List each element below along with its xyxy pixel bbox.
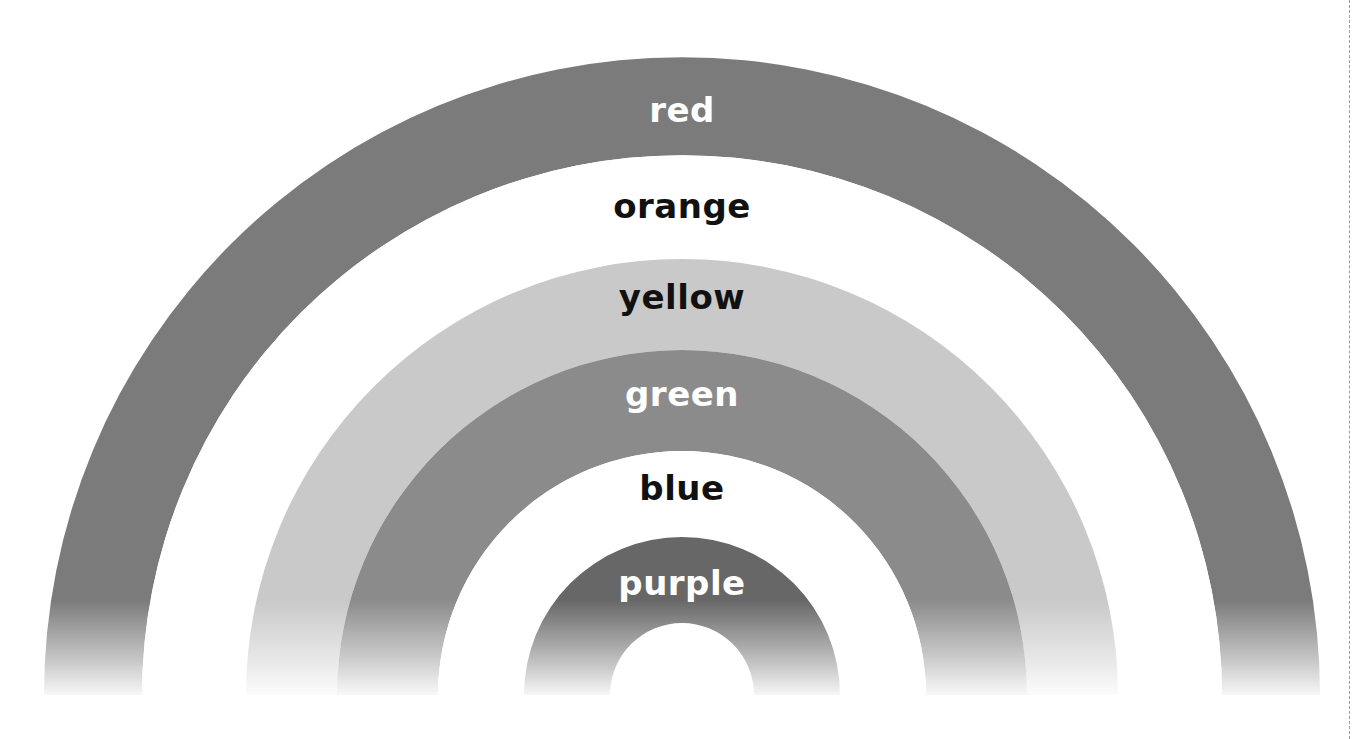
label-blue: blue <box>0 468 1364 508</box>
label-green: green <box>0 374 1364 414</box>
label-orange: orange <box>0 186 1364 226</box>
label-red: red <box>0 90 1364 130</box>
bottom-fade <box>0 600 1364 739</box>
label-purple: purple <box>0 563 1364 603</box>
label-yellow: yellow <box>0 277 1364 317</box>
